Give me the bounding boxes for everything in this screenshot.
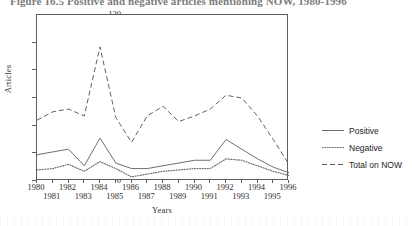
series-line-negative (37, 159, 289, 177)
legend-item-total-on-now[interactable]: Total on NOW (322, 156, 410, 173)
x-tick-label-1995: 1995 (257, 191, 287, 201)
figure-container: Figure 16.5 Positive and negative articl… (0, 0, 412, 226)
legend-swatch-solid-icon (322, 126, 344, 135)
plot-area (36, 14, 288, 180)
x-tick-label-1991: 1991 (194, 191, 224, 201)
legend-label: Negative (349, 143, 383, 153)
x-tick-label-1983: 1983 (68, 191, 98, 201)
series-canvas (37, 15, 289, 181)
legend-label: Positive (349, 126, 379, 136)
x-tick-label-1987: 1987 (131, 191, 161, 201)
x-tick-label-1985: 1985 (100, 191, 130, 201)
x-tick-label-1989: 1989 (163, 191, 193, 201)
legend-swatch-dotted-icon (322, 143, 344, 152)
figure-title: Figure 16.5 Positive and negative articl… (10, 0, 402, 7)
series-line-total-on-now (37, 47, 289, 165)
x-tick-label-1981: 1981 (37, 191, 67, 201)
x-tick-label-1993: 1993 (226, 191, 256, 201)
scan-artifact (0, 216, 412, 226)
x-tick-label-1996: 1996 (273, 182, 303, 192)
legend-swatch-dashed-icon (322, 160, 344, 169)
y-axis-title: Articles (3, 49, 13, 109)
legend-label: Total on NOW (349, 160, 402, 170)
x-axis-title: Years (132, 205, 192, 215)
legend-item-positive[interactable]: Positive (322, 122, 410, 139)
chart-legend: PositiveNegativeTotal on NOW (322, 122, 410, 173)
legend-item-negative[interactable]: Negative (322, 139, 410, 156)
